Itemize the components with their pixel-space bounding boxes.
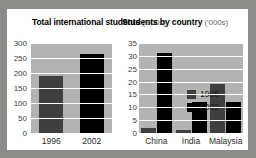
plot-area-right: 19962002: [139, 43, 243, 133]
plot-area-left: [31, 43, 112, 133]
y-axis-tick-label: 100: [14, 99, 27, 108]
y-axis-tick-label: 10: [128, 103, 137, 112]
x-axis-tick-label: Malaysia: [208, 135, 243, 149]
chart-title-right-units: ('000s): [205, 18, 229, 27]
charts-container: Total international students ('000s) 300…: [7, 9, 248, 150]
plot-background-left: [31, 43, 112, 133]
x-axis-tick-label: China: [139, 135, 174, 149]
y-axis-tick-label: 150: [14, 84, 27, 93]
gridline: [139, 82, 243, 83]
y-axis-tick-label: 0: [133, 129, 137, 138]
bar: [39, 76, 63, 133]
chart-title-right: Students by country ('000s): [122, 17, 228, 28]
y-axis-tick-label: 25: [128, 64, 137, 73]
x-axis-tick-label: 2002: [72, 135, 113, 149]
y-axis-tick-label: 35: [128, 39, 137, 48]
y-axis-tick-label: 50: [18, 114, 27, 123]
x-axis-tick-label: 1996: [31, 135, 72, 149]
chart-total-international-students: Total international students ('000s) 300…: [7, 9, 118, 150]
y-axis-tick-label: 15: [128, 90, 137, 99]
chart-card: Total international students ('000s) 300…: [7, 9, 248, 150]
gridline: [31, 118, 112, 119]
gridline: [139, 133, 243, 134]
y-axis-tick-label: 5: [133, 116, 137, 125]
y-axis-labels-right: 35302520151050: [117, 43, 139, 133]
gridline: [31, 88, 112, 89]
y-axis-tick-label: 250: [14, 54, 27, 63]
y-axis-labels-left: 300250200150100500: [7, 43, 29, 133]
chart-legend: 19962002: [187, 89, 219, 115]
gridline: [139, 43, 243, 44]
gridline: [139, 107, 243, 108]
gridline: [31, 73, 112, 74]
gridline: [139, 120, 243, 121]
gridline: [31, 43, 112, 44]
gridline: [31, 103, 112, 104]
y-axis-tick-label: 20: [128, 77, 137, 86]
x-axis-tick-label: India: [174, 135, 209, 149]
gridline: [31, 133, 112, 134]
gridline: [31, 58, 112, 59]
x-axis-labels-left: 19962002: [31, 135, 112, 149]
y-axis-tick-label: 0: [23, 129, 27, 138]
bar: [80, 54, 104, 134]
chart-title-right-text: Students by country: [122, 17, 202, 27]
gridline: [139, 69, 243, 70]
y-axis-tick-label: 200: [14, 69, 27, 78]
y-axis-tick-label: 300: [14, 39, 27, 48]
gridline: [139, 56, 243, 57]
plot-background-right: 19962002: [139, 43, 243, 133]
x-axis-labels-right: ChinaIndiaMalaysia: [139, 135, 243, 149]
gridline: [139, 94, 243, 95]
chart-students-by-country: Students by country ('000s) 353025201510…: [118, 9, 248, 150]
y-axis-tick-label: 30: [128, 51, 137, 60]
